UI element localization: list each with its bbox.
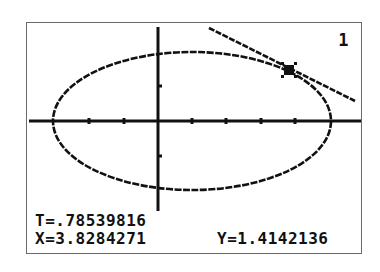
t-label: T= xyxy=(35,211,55,230)
x-readout: X=3.8284271 xyxy=(35,231,146,247)
x-value: 3.8284271 xyxy=(55,229,146,248)
x-label: X= xyxy=(35,229,55,248)
calculator-graph-screen: 1 T=.78539816 X=3.8284271 Y=1.4142136 xyxy=(26,22,362,254)
y-readout: Y=1.4142136 xyxy=(217,231,328,247)
t-readout: T=.78539816 xyxy=(35,213,146,229)
t-value: .78539816 xyxy=(55,211,146,230)
y-label: Y= xyxy=(217,229,237,248)
graph-number-indicator: 1 xyxy=(338,32,349,48)
y-value: 1.4142136 xyxy=(237,229,328,248)
